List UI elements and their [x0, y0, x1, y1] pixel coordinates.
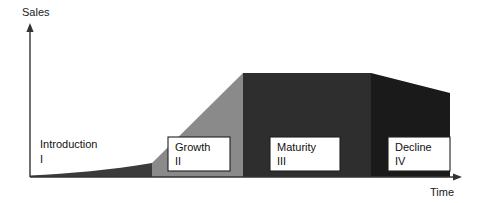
product-life-cycle-chart: Sales Time Introduction I Growth II Matu…: [0, 0, 489, 203]
stage-label-growth: Growth: [175, 141, 210, 153]
stage-label-introduction: Introduction: [40, 138, 97, 150]
y-axis-label: Sales: [22, 6, 50, 18]
stage-box-growth: Growth II: [168, 137, 230, 171]
y-axis-arrowhead: [26, 23, 33, 32]
x-axis-arrowhead: [453, 173, 462, 180]
stage-numeral-growth: II: [175, 155, 181, 167]
stage-numeral-decline: IV: [395, 155, 406, 167]
x-axis-label: Time: [430, 186, 454, 198]
stage-numeral-maturity: III: [277, 155, 286, 167]
stage-label-decline: Decline: [395, 141, 432, 153]
stage-box-maturity: Maturity III: [270, 137, 340, 171]
chart-canvas: Sales Time Introduction I Growth II Matu…: [0, 0, 489, 203]
stage-box-decline: Decline IV: [388, 137, 450, 171]
stage-region-introduction: [30, 163, 152, 177]
stage-label-maturity: Maturity: [277, 141, 317, 153]
stage-numeral-introduction: I: [40, 153, 43, 165]
